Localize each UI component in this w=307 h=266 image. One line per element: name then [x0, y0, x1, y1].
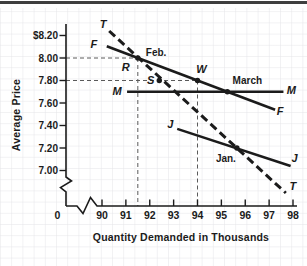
x-axis-title: Quantity Demanded in Thousands: [66, 231, 296, 243]
series-F-end-label: F: [277, 105, 284, 117]
point-dot-Jan.: [234, 145, 239, 150]
point-label-Jan.: Jan.: [216, 153, 236, 164]
page: $8.208.007.807.607.407.207.0090919293949…: [0, 0, 307, 266]
point-dot-S: [157, 78, 162, 83]
x-tick-label-97: 97: [263, 209, 275, 221]
series-M-end-label: M: [287, 84, 297, 96]
x-tick-label-93: 93: [168, 209, 180, 221]
point-dot-Feb.: [135, 55, 140, 60]
y-tick-label-7.8: 7.80: [39, 75, 59, 86]
x-tick-label-94: 94: [192, 209, 204, 221]
x-tick-label-92: 92: [144, 209, 156, 221]
series-J-end-label: J: [292, 152, 299, 164]
y-tick-label-8: 8.00: [39, 53, 59, 64]
x-tick-label-98: 98: [287, 209, 299, 221]
x-tick-label-96: 96: [239, 209, 251, 221]
demand-chart-figure: $8.208.007.807.607.407.207.0090919293949…: [0, 0, 307, 266]
x-tick-label-95: 95: [216, 209, 228, 221]
point-label-S: S: [147, 74, 155, 86]
series-M-start-label: M: [112, 85, 122, 97]
series-F-start-label: F: [90, 38, 97, 50]
x-tick-label-91: 91: [120, 209, 132, 221]
point-label-R: R: [122, 61, 130, 73]
point-label-W: W: [196, 63, 208, 75]
y-tick-label-7.2: 7.20: [39, 143, 59, 154]
point-label-March: March: [233, 75, 262, 86]
point-dot-March: [225, 89, 230, 94]
series-J-start-label: J: [167, 118, 174, 130]
y-tick-label-7: 7.00: [39, 165, 59, 176]
point-dot-W: [195, 78, 200, 83]
y-tick-label-7.6: 7.60: [39, 98, 59, 109]
y-tick-label-8.2: $8.20: [33, 30, 58, 41]
chart-canvas: $8.208.007.807.607.407.207.0090919293949…: [0, 0, 307, 266]
y-axis-title: Average Price: [10, 60, 24, 170]
point-label-Feb.: Feb.: [146, 47, 167, 58]
y-tick-label-7.4: 7.40: [39, 120, 59, 131]
x-tick-label-90: 90: [96, 209, 108, 221]
origin-label: 0: [55, 209, 61, 221]
